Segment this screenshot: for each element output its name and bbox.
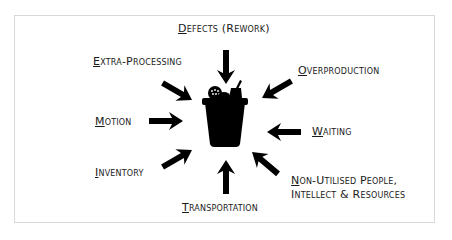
arrow-non-utilised [246,145,284,181]
label-inventory: Inventory [95,166,144,180]
arrow-inventory [158,142,196,175]
trash-bin-icon [202,80,248,147]
label-defects: Defects (Rework) [178,22,270,36]
label-extra-processing: Extra-Processing [93,55,182,69]
arrow-extra-processing [158,75,196,108]
arrow-waiting [267,123,301,141]
label-motion: Motion [95,115,132,129]
label-waiting: Waiting [312,125,352,139]
arrow-transportation [217,160,235,194]
label-overproduction: Overproduction [298,64,379,78]
label-non-utilised: Non-Utilised People, Intellect & Resourc… [291,174,405,202]
arrow-overproduction [258,73,296,106]
arrow-defects [217,50,235,84]
arrow-motion [149,112,183,130]
label-transportation: Transportation [182,201,258,215]
